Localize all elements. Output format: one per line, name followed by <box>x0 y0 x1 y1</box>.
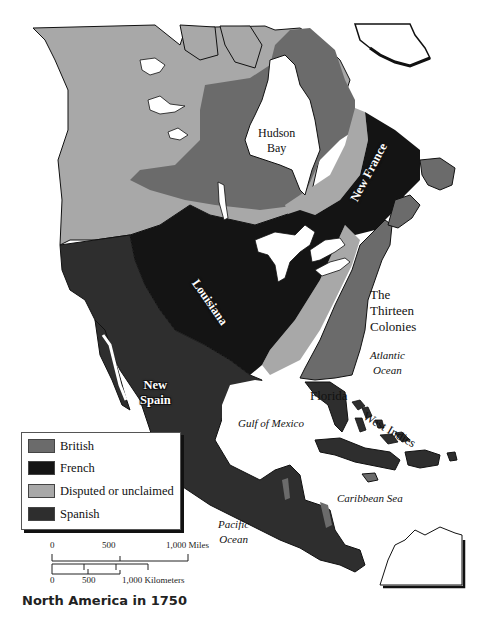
scale-bar: 0 500 1,000 Miles 0 500 1,000 Kilometers <box>40 540 240 585</box>
map-legend: British French Disputed or unclaimed Spa… <box>21 432 181 530</box>
hudson-bay-label-line1: Hudson <box>258 126 295 141</box>
caribbean-sea-label: Caribbean Sea <box>337 491 403 506</box>
thirteen-colonies-line1: The <box>370 287 416 303</box>
thirteen-colonies-line3: Colonies <box>370 319 416 335</box>
jamaica <box>362 473 378 482</box>
legend-label-spanish: Spanish <box>60 507 100 522</box>
hudson-bay-label: Hudson Bay <box>258 126 295 156</box>
legend-swatch-disputed <box>28 484 55 498</box>
new-spain-line2: Spain <box>140 393 171 408</box>
legend-swatch-french <box>28 461 55 475</box>
hudson-bay-label-line2: Bay <box>258 141 295 156</box>
map-title: North America in 1750 <box>22 593 187 608</box>
atlantic-line1: Atlantic <box>370 348 405 363</box>
legend-swatch-british <box>28 439 55 453</box>
legend-item-disputed: Disputed or unclaimed <box>28 482 174 500</box>
hispaniola <box>405 450 440 468</box>
legend-item-british: British <box>28 437 94 455</box>
thirteen-colonies-line2: Thirteen <box>370 303 416 319</box>
florida-label: Florida <box>310 388 348 404</box>
legend-label-british: British <box>60 439 94 454</box>
british-newfoundland <box>420 158 455 190</box>
new-spain-line1: New <box>140 378 171 393</box>
thirteen-colonies-label: The Thirteen Colonies <box>370 287 416 335</box>
scale-km-500: 500 <box>82 575 96 585</box>
legend-item-spanish: Spanish <box>28 505 100 523</box>
scale-km-1000: 1,000 Kilometers <box>122 575 185 585</box>
scale-km-0: 0 <box>50 575 55 585</box>
legend-swatch-spanish <box>28 507 55 521</box>
atlantic-line2: Ocean <box>370 363 405 378</box>
legend-label-disputed: Disputed or unclaimed <box>60 484 174 499</box>
puerto-rico <box>447 452 457 461</box>
gulf-of-mexico-label: Gulf of Mexico <box>238 416 304 431</box>
legend-item-french: French <box>28 459 95 477</box>
atlantic-ocean-label: Atlantic Ocean <box>370 348 405 378</box>
legend-label-french: French <box>60 461 95 476</box>
pacific-line1: Pacific <box>218 517 249 532</box>
south-america-outline <box>380 527 462 585</box>
new-spain-label: New Spain <box>140 378 171 408</box>
